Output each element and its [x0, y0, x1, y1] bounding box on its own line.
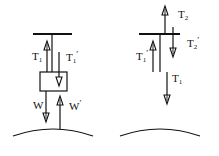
block [40, 72, 67, 91]
label-t1: T1 [32, 50, 43, 64]
arrow-t1-prime-up [150, 41, 156, 72]
left-panel: T1 T1′ W W′ [13, 34, 93, 136]
label-w-prime: W′ [69, 98, 81, 112]
label-t2: T2 [178, 8, 189, 22]
arrow-w-prime-up [57, 96, 63, 129]
arrow-t1-up [44, 41, 50, 72]
ground-arc-right [120, 129, 200, 136]
arrow-t2-prime-down [170, 27, 176, 57]
label-t1-prime-right: T1′ [136, 48, 148, 64]
arrow-t1-down [164, 72, 170, 104]
arrow-w-down [43, 91, 49, 122]
label-w: W [33, 99, 44, 111]
label-t1-prime: T1′ [66, 49, 78, 65]
arrow-t2-up [162, 6, 168, 34]
label-t1-right: T1 [172, 72, 183, 86]
label-t2-prime: T2′ [187, 35, 199, 51]
right-panel: T2 T2′ T1′ T1 [120, 6, 200, 136]
force-diagram: T1 T1′ W W′ [0, 0, 219, 156]
ground-arc-left [13, 129, 93, 136]
